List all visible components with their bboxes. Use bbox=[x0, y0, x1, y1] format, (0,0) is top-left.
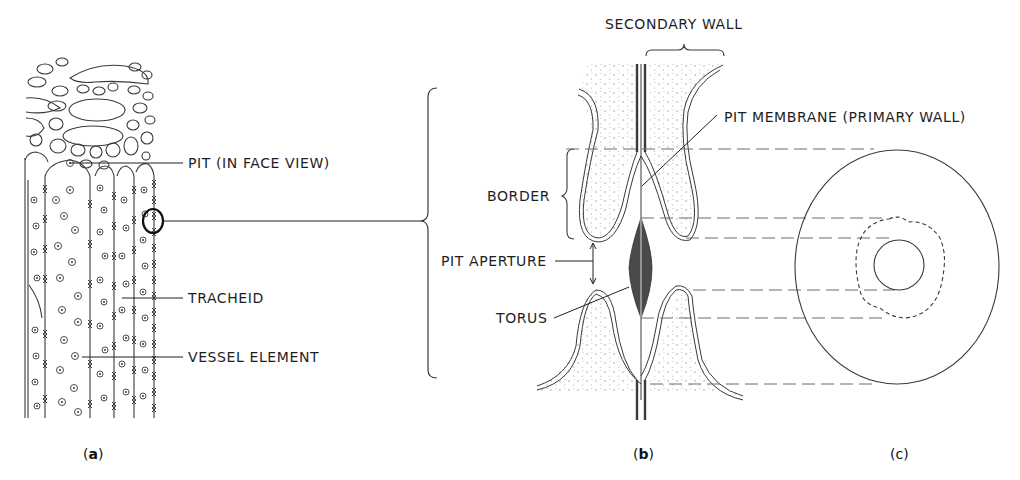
panel-letter-b: b bbox=[638, 446, 648, 462]
torus-outline bbox=[856, 217, 945, 318]
paren-close: ) bbox=[98, 446, 103, 462]
torus bbox=[629, 218, 652, 318]
panel-b-pit-section bbox=[537, 44, 743, 420]
panel-label-a: (a) bbox=[83, 446, 103, 462]
label-pit-aperture: PIT APERTURE bbox=[441, 253, 547, 269]
label-tracheid: TRACHEID bbox=[188, 290, 264, 306]
large-bracket bbox=[420, 88, 437, 378]
secondary-wall-upper-left bbox=[578, 64, 636, 237]
panel-c-face-view bbox=[795, 150, 999, 384]
parenchyma-cells bbox=[25, 58, 155, 176]
panel-label-c: (c) bbox=[890, 446, 909, 462]
label-pit-membrane: PIT MEMBRANE (PRIMARY WALL) bbox=[724, 109, 966, 125]
label-secondary-wall: SECONDARY WALL bbox=[605, 16, 743, 32]
label-border: BORDER bbox=[487, 188, 550, 204]
pit-aperture-circle bbox=[874, 240, 924, 290]
bordered-pit-diagram bbox=[0, 0, 1020, 480]
border-bracket bbox=[562, 149, 574, 239]
secondary-wall-upper-right bbox=[650, 64, 720, 237]
cell-walls bbox=[25, 158, 154, 418]
leader-lines-a bbox=[70, 163, 420, 357]
panel-label-b: (b) bbox=[633, 446, 654, 462]
paren-close: ) bbox=[649, 446, 654, 462]
label-pit-face-view: PIT (IN FACE VIEW) bbox=[188, 155, 330, 171]
label-vessel-element: VESSEL ELEMENT bbox=[188, 349, 319, 365]
label-torus: TORUS bbox=[496, 310, 547, 326]
panel-letter-a: a bbox=[88, 446, 97, 462]
pit-aperture-arrow bbox=[555, 243, 596, 284]
pit-border-outline bbox=[795, 150, 999, 384]
secondary-wall-bracket bbox=[646, 44, 724, 56]
